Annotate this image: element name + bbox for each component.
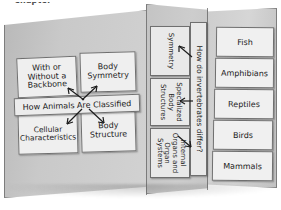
board-fold-right [207,8,208,190]
board-fold-left [146,5,147,195]
card-specialized-body-structures: SpecializedBodyStructures [150,78,190,126]
card-label: With orWithout aBackbone [25,63,69,92]
card-label: SpecializedBodyStructures [158,82,181,122]
card-label: BodySymmetry [85,62,131,81]
card-with-or-without-backbone: With orWithout aBackbone [16,56,78,98]
card-label: InternalOrgans andOrganSystems [154,133,185,173]
card-label: Reptiles [228,99,260,108]
heading-how-do-invertebrates-differ: How do invertebrates differ? [190,22,207,176]
display-board: With orWithout aBackbone BodySymmetry Ho… [0,0,281,210]
card-label: Mammals [223,161,262,170]
card-label: Fish [237,37,253,46]
card-cellular-characteristics: CellularCharacteristics [18,113,79,154]
trifold-board-illustration: Chapter With orWithout aBackbone BodySym… [0,0,281,210]
card-label: Symmetry [166,33,174,69]
card-label: CellularCharacteristics [18,125,78,143]
card-body-structure: BodyStructure [80,109,136,153]
card-label: BodyStructure [88,121,130,140]
card-invertebrate-symmetry: Symmetry [150,26,190,76]
card-mammals: Mammals [212,151,273,182]
card-reptiles: Reptiles [214,89,274,120]
card-birds: Birds [213,120,273,151]
banner-label: How Animals Are Classified [23,99,132,112]
card-internal-organs-and-organ-systems: InternalOrgans andOrganSystems [150,128,190,178]
card-body-symmetry: BodySymmetry [79,51,136,93]
board-shadow [6,184,274,198]
heading-label: How do invertebrates differ? [194,46,202,153]
card-fish: Fish [216,27,274,58]
card-amphibians: Amphibians [215,58,274,89]
card-label: Amphibians [221,68,268,77]
card-label: Birds [233,130,253,139]
